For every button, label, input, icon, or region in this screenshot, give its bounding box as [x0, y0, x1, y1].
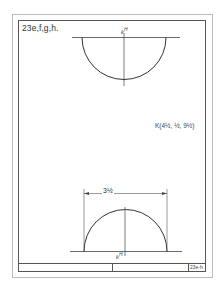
inner-border: [19, 21, 206, 272]
bottom-point-superscript: H: [119, 251, 123, 257]
dimension-arrow-left: [84, 192, 89, 195]
drawing-sheet: [0, 0, 224, 290]
bottom-semicircle-arc: [84, 210, 167, 252]
dimension-label: 3½: [102, 187, 114, 194]
outer-border: [13, 15, 213, 278]
coordinates-note: K(4½, ½, 9½): [155, 122, 194, 129]
top-point-label: kH: [121, 26, 128, 35]
bottom-point-label: kH: [116, 251, 123, 260]
sheet-title: 23e,f,g,h.: [22, 23, 58, 33]
top-point-superscript: H: [124, 26, 128, 32]
dimension-arrow-right: [162, 192, 167, 195]
top-view: [72, 33, 180, 86]
sheet-number: 23e-h: [190, 264, 203, 270]
bottom-view: [70, 189, 182, 256]
